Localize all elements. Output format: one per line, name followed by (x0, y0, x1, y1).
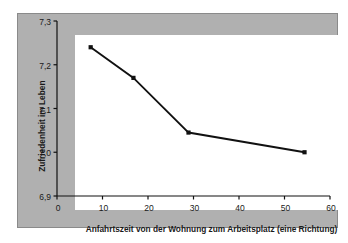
y-tick-label: 7,1 (18, 105, 51, 114)
x-tick-label: 60 (326, 204, 335, 213)
x-axis-title: Anfahrtszeit von der Wohnung zum Arbeits… (75, 225, 348, 233)
y-tick-label: 7,2 (18, 62, 51, 71)
y-tick-label: 6,9 (18, 193, 51, 202)
x-tick-label: 0 (56, 204, 61, 213)
chart-panel: Zufriedenheit im Leben Anfahrtszeit von … (17, 13, 338, 228)
x-tick-label: 20 (144, 204, 153, 213)
y-axis-title: Zufriedenheit im Leben (38, 61, 46, 191)
x-tick-label: 30 (190, 204, 199, 213)
x-tick-label: 10 (99, 204, 108, 213)
x-tick-label: 50 (281, 204, 290, 213)
x-tick-label: 40 (235, 204, 244, 213)
y-tick-label: 7,3 (18, 18, 51, 27)
y-tick-label: 7,0 (18, 149, 51, 158)
chart-figure: Zufriedenheit im Leben Anfahrtszeit von … (0, 0, 348, 243)
plot-area (75, 35, 348, 210)
